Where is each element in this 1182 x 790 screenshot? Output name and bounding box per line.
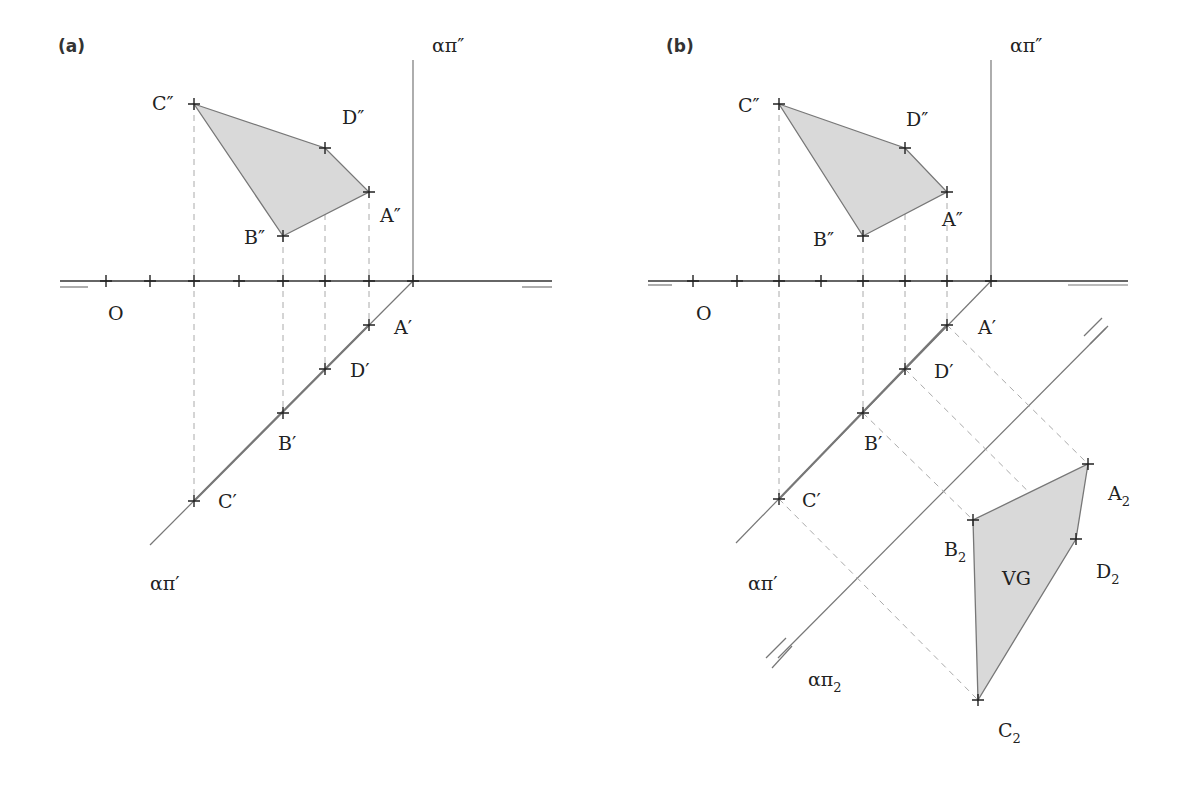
point-d-aux: D2 [1096,560,1120,587]
horizontal-trace-label-a: απ′ [150,572,180,594]
panel-a-label: (a) [58,36,85,56]
point-c1-b: C′ [802,489,821,511]
point-c1-a: C′ [218,490,237,512]
point-a2-b: A″ [941,208,963,230]
aux-projector-b [863,413,973,520]
panel-b: (b) απ″ απ′ απ2 VG [648,34,1130,746]
aux-mark-top-1 [1084,318,1102,336]
point-a1-b: A′ [977,316,996,338]
origin-label-a: O [108,302,124,324]
descriptive-geometry-figure: (a) απ″ απ′ O C″ D″ A″ B″ A′ D′ [0,0,1182,790]
point-a1-a: A′ [393,316,412,338]
point-c-aux: C2 [998,719,1021,746]
horizontal-trace-label-b: απ′ [748,572,778,594]
point-b2-b: B″ [813,228,834,250]
origin-label-b: O [696,302,712,324]
aux-mark-bottom-1 [766,638,786,658]
point-d1-a: D′ [350,359,370,381]
point-a-aux: A2 [1107,482,1130,509]
point-b2-a: B″ [244,226,265,248]
aux-projector-a [947,325,1088,464]
point-b1-a: B′ [278,432,296,454]
point-c2-a: C″ [152,92,174,114]
point-a2-a: A″ [379,204,401,226]
point-c2-b: C″ [738,94,760,116]
true-shape-label: VG [1001,567,1031,589]
point-b-aux: B2 [944,538,966,565]
point-d2-a: D″ [342,106,364,128]
point-d2-b: D″ [906,108,928,130]
panel-b-label: (b) [666,36,694,56]
panel-a: (a) απ″ απ′ O C″ D″ A″ B″ A′ D′ [58,34,552,594]
frontal-trace-label-b: απ″ [1010,34,1042,56]
frontal-trace-label-a: απ″ [432,34,464,56]
aux-mark-top-2 [1090,326,1108,344]
auxiliary-trace-label-b: απ2 [808,668,842,695]
point-b1-b: B′ [864,432,882,454]
point-d1-b: D′ [934,360,954,382]
